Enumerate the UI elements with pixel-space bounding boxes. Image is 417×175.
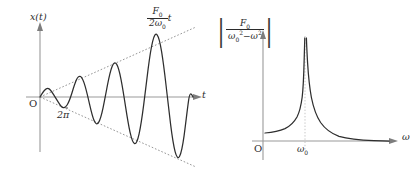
right-x-axis-label: ω	[402, 132, 410, 142]
period-marker-label: 2π	[57, 110, 69, 120]
envelope-trailing-variable: t	[168, 13, 172, 23]
right-plot-group	[252, 30, 398, 160]
left-y-axis-arrowhead	[37, 22, 43, 31]
response-curve-left-branch	[265, 38, 305, 133]
abs-bar-right: |	[265, 17, 272, 45]
abs-bar-left: |	[218, 17, 225, 45]
right-y-axis-label: | F0 ω02−ω2 |	[216, 17, 274, 45]
left-x-axis-arrowhead	[193, 94, 202, 100]
resonance-tick-label: ω0	[297, 145, 308, 156]
left-plot-group	[26, 22, 202, 167]
right-origin-label: O	[254, 144, 262, 154]
left-origin-label: O	[29, 99, 37, 109]
envelope-fraction: F0 2ω0	[147, 7, 168, 29]
physics-figure-resonance: x(t) t O 2π F0 2ω0 t | F0 ω02−ω2 | O ω ω…	[0, 0, 417, 175]
response-curve-right-branch	[306, 38, 389, 141]
right-x-axis-arrowhead	[389, 138, 398, 144]
envelope-denominator: 2ω0	[147, 19, 168, 30]
response-fraction: F0 ω02−ω2	[226, 19, 264, 43]
envelope-slope-label: F0 2ω0 t	[147, 7, 171, 29]
response-denominator: ω02−ω2	[226, 30, 264, 43]
left-y-axis-label: x(t)	[30, 12, 47, 22]
upper-envelope-line	[40, 27, 196, 97]
left-x-axis-label: t	[202, 90, 206, 100]
growing-oscillation-curve	[40, 34, 193, 157]
figure-canvas	[0, 0, 417, 175]
